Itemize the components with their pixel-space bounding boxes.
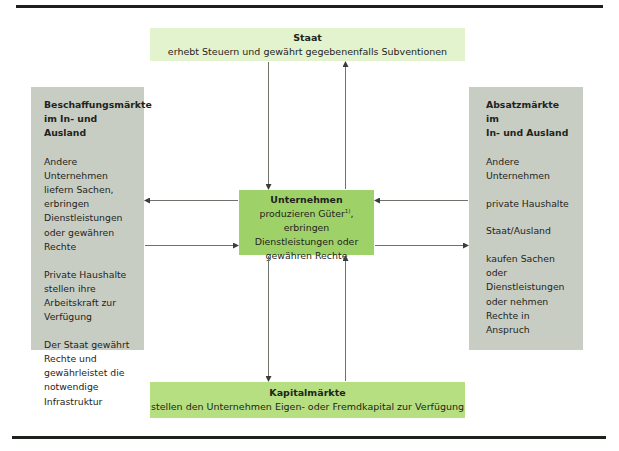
flow-arrows <box>0 0 619 451</box>
